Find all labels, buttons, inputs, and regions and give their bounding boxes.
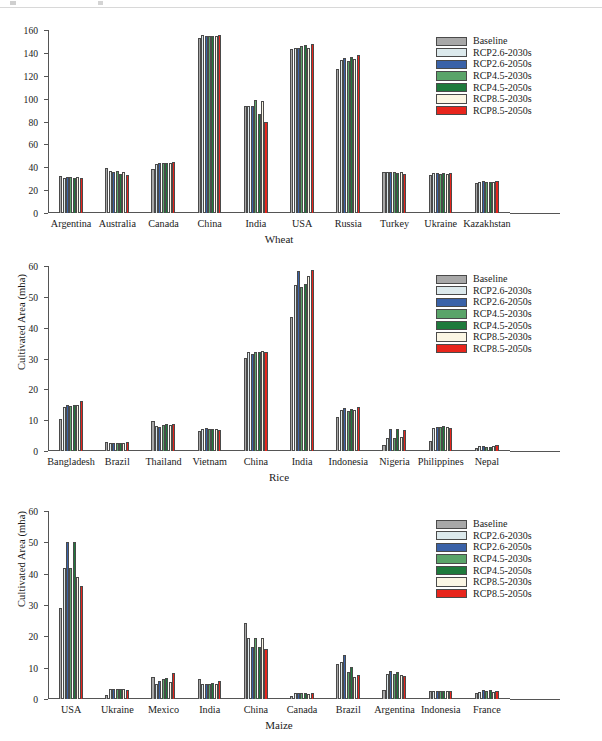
bar (449, 691, 452, 699)
bar (264, 122, 267, 213)
y-axis-tick (44, 451, 48, 452)
y-axis-tick (44, 542, 48, 543)
y-axis-tick-label: 30 (28, 600, 38, 611)
legend-item[interactable]: RCP2.6-2050s (436, 297, 532, 307)
x-axis-extension (510, 699, 560, 700)
bar (403, 174, 406, 213)
y-axis-tick-label: 40 (28, 568, 38, 579)
bar (449, 173, 452, 213)
y-axis-tick (44, 389, 48, 390)
y-axis-tick-label: 30 (28, 353, 38, 364)
legend-color-swatch (436, 520, 467, 529)
legend-item[interactable]: RCP8.5-2030s (436, 332, 532, 342)
x-axis-category-label: Turkey (380, 218, 409, 229)
x-axis-title: Maize (265, 719, 292, 731)
legend-color-swatch (436, 543, 467, 552)
x-axis-title: Wheat (265, 233, 294, 245)
legend-color-swatch (436, 37, 467, 46)
y-axis-tick-label: 160 (24, 25, 38, 36)
legend-item[interactable]: RCP8.5-2050s (436, 588, 532, 598)
legend-item-label: RCP4.5-2030s (473, 71, 532, 81)
legend-item-label: RCP8.5-2030s (473, 332, 532, 342)
y-axis-tick (44, 328, 48, 329)
legend-item-label: RCP4.5-2050s (473, 566, 532, 576)
y-axis-tick (44, 266, 48, 267)
y-axis-tick-label: 0 (33, 446, 38, 457)
bar (172, 424, 175, 451)
legend-item[interactable]: RCP4.5-2050s (436, 565, 532, 575)
legend-item[interactable]: RCP2.6-2030s (436, 531, 532, 541)
x-axis-category-label: USA (292, 218, 312, 229)
legend-item[interactable]: RCP4.5-2050s (436, 320, 532, 330)
legend-item[interactable]: RCP8.5-2050s (436, 343, 532, 353)
bar (495, 181, 498, 213)
bar (80, 178, 83, 213)
bar (126, 175, 129, 213)
legend-color-swatch (436, 48, 467, 57)
x-axis-category-label: Nigeria (379, 456, 410, 467)
legend-item-label: RCP2.6-2030s (473, 531, 532, 541)
legend-color-swatch (436, 298, 467, 307)
y-axis-tick (44, 511, 48, 512)
x-axis-category-label: India (245, 218, 266, 229)
bar (126, 442, 129, 451)
legend-item[interactable]: RCP4.5-2050s (436, 82, 532, 92)
x-axis-category-label: Canada (287, 704, 318, 715)
x-axis-category-label: Australia (99, 218, 136, 229)
y-axis-tick (44, 144, 48, 145)
legend-item-label: RCP8.5-2050s (473, 106, 532, 116)
x-axis-category-label: Ukraine (424, 218, 457, 229)
y-axis-tick-label: 140 (24, 47, 38, 58)
legend-color-swatch (436, 94, 467, 103)
legend-item[interactable]: RCP8.5-2030s (436, 94, 532, 104)
legend-item[interactable]: Baseline (436, 36, 532, 46)
x-axis-category-label: Vietnam (192, 456, 226, 467)
legend-item-label: RCP4.5-2030s (473, 309, 532, 319)
legend-item[interactable]: RCP4.5-2030s (436, 554, 532, 564)
legend-item-label: Baseline (473, 36, 507, 46)
legend-item-label: RCP2.6-2050s (473, 59, 532, 69)
y-axis-tick-label: 80 (28, 116, 38, 127)
y-axis-tick-label: 10 (28, 662, 38, 673)
bar (311, 270, 314, 451)
legend-color-swatch (436, 286, 467, 295)
bar (357, 407, 360, 451)
y-axis-tick-label: 50 (28, 291, 38, 302)
y-axis-tick (44, 190, 48, 191)
y-axis-tick (44, 636, 48, 637)
legend-item[interactable]: RCP4.5-2030s (436, 309, 532, 319)
y-axis-tick-label: 20 (28, 631, 38, 642)
legend-item[interactable]: RCP2.6-2030s (436, 286, 532, 296)
legend-item[interactable]: RCP4.5-2030s (436, 71, 532, 81)
x-axis-category-label: China (244, 704, 268, 715)
legend-color-swatch (436, 71, 467, 80)
y-axis-tick (44, 668, 48, 669)
y-axis-tick-label: 60 (28, 261, 38, 272)
x-axis-category-label: Argentina (374, 704, 415, 715)
legend-color-swatch (436, 83, 467, 92)
bar (403, 430, 406, 451)
y-axis-tick-label: 0 (33, 208, 38, 219)
page-edge-mark-left (10, 1, 16, 5)
y-axis-tick (44, 574, 48, 575)
legend-item-label: RCP2.6-2050s (473, 542, 532, 552)
y-axis-tick (44, 359, 48, 360)
legend-color-swatch (436, 275, 467, 284)
bar (357, 55, 360, 213)
legend-item[interactable]: RCP8.5-2030s (436, 577, 532, 587)
x-axis-category-label: Nepal (475, 456, 499, 467)
y-axis-tick-label: 50 (28, 537, 38, 548)
x-axis-category-label: Canada (148, 218, 179, 229)
bar (264, 352, 267, 451)
legend-item[interactable]: RCP2.6-2050s (436, 542, 532, 552)
legend-item[interactable]: RCP2.6-2030s (436, 48, 532, 58)
legend-item[interactable]: Baseline (436, 519, 532, 529)
legend-item[interactable]: Baseline (436, 274, 532, 284)
legend-item[interactable]: RCP8.5-2050s (436, 105, 532, 115)
bar (80, 586, 83, 699)
bar (218, 35, 221, 213)
legend-item[interactable]: RCP2.6-2050s (436, 59, 532, 69)
bar (172, 673, 175, 699)
legend-item-label: RCP2.6-2050s (473, 297, 532, 307)
y-axis-tick (44, 420, 48, 421)
